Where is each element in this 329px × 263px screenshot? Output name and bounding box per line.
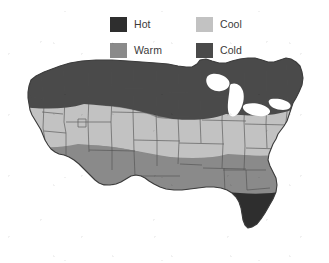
legend-item-warm: Warm — [110, 38, 196, 62]
legend-item-cold: Cold — [196, 38, 282, 62]
legend-item-hot: Hot — [110, 12, 196, 36]
legend-item-cool: Cool — [196, 12, 282, 36]
legend-label-warm: Warm — [134, 45, 162, 56]
legend-swatch-cool — [196, 17, 213, 32]
legend-label-cool: Cool — [220, 19, 242, 30]
climate-zone-figure: Hot Cool Warm Cold — [0, 0, 329, 263]
legend-label-hot: Hot — [134, 19, 151, 30]
legend-swatch-cold — [196, 43, 213, 58]
map-legend: Hot Cool Warm Cold — [110, 12, 310, 62]
legend-label-cold: Cold — [220, 45, 242, 56]
legend-swatch-hot — [110, 17, 127, 32]
legend-swatch-warm — [110, 43, 127, 58]
